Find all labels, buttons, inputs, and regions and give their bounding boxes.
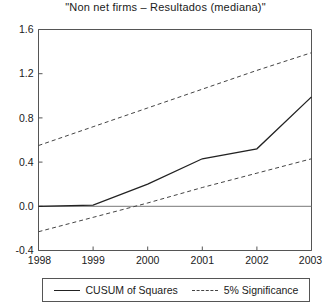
x-axis-tick-label: 2000 — [136, 254, 160, 266]
y-axis-tick-label: 1.6 — [19, 23, 34, 35]
series-line — [39, 53, 312, 146]
plot-frame — [39, 30, 312, 251]
legend-solid-line-icon — [54, 290, 80, 291]
y-axis-tick-label: 0.0 — [19, 200, 34, 212]
legend-entry: 5% Significance — [192, 284, 299, 296]
y-axis-tick-label: 0.4 — [19, 156, 34, 168]
x-axis-tick-label: 2003 — [299, 254, 323, 266]
y-axis-tick-label: 1.2 — [19, 67, 34, 79]
legend-label: 5% Significance — [224, 284, 299, 296]
chart-figure: "Non net firms – Resultados (mediana)" -… — [0, 0, 331, 306]
x-axis-tick-label: 1998 — [28, 254, 52, 266]
x-axis-tick-label: 2001 — [191, 254, 215, 266]
legend-entry: CUSUM of Squares — [54, 284, 178, 296]
series-line — [39, 159, 312, 232]
x-axis-tick-label: 1999 — [81, 254, 105, 266]
legend-label: CUSUM of Squares — [86, 284, 178, 296]
series-line — [39, 97, 312, 206]
y-axis-tick-label: 0.8 — [19, 112, 34, 124]
chart-legend: CUSUM of Squares5% Significance — [42, 278, 310, 302]
legend-dashed-line-icon — [192, 290, 218, 291]
x-axis-tick-label: 2002 — [245, 254, 269, 266]
plot-area: -0.40.00.40.81.21.6199819992000200120022… — [0, 0, 331, 306]
